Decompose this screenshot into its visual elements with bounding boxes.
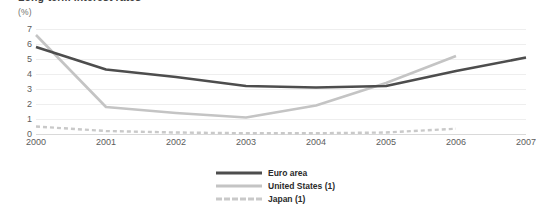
y-tick-label-5: 5 [6, 54, 32, 64]
chart-title: Long-term interest rates [18, 0, 141, 3]
series-line-japan-1 [36, 127, 456, 134]
legend-swatch-icon [216, 180, 262, 192]
x-tick-label-2000: 2000 [26, 137, 46, 147]
x-tick-label-2004: 2004 [306, 137, 326, 147]
x-tick-label-2002: 2002 [166, 137, 186, 147]
legend-label: United States (1) [268, 181, 335, 191]
x-tick-label-2003: 2003 [236, 137, 256, 147]
y-tick-label-6: 6 [6, 39, 32, 49]
legend-swatch-icon [216, 167, 262, 179]
y-tick-label-3: 3 [6, 84, 32, 94]
y-tick-label-1: 1 [6, 114, 32, 124]
chart-legend: Euro areaUnited States (1)Japan (1) [216, 166, 416, 205]
x-axis: 20002001200220032004200520062007 [36, 137, 526, 153]
series-line-united-states-1 [36, 35, 456, 118]
legend-item-united-states-1[interactable]: United States (1) [216, 179, 416, 192]
x-tick-label-2005: 2005 [376, 137, 396, 147]
y-tick-label-7: 7 [6, 24, 32, 34]
series-line-euro-area [36, 47, 526, 88]
y-tick-label-2: 2 [6, 99, 32, 109]
legend-item-japan-1[interactable]: Japan (1) [216, 192, 416, 205]
legend-item-euro-area[interactable]: Euro area [216, 166, 416, 179]
x-tick-label-2006: 2006 [446, 137, 466, 147]
legend-label: Euro area [268, 168, 307, 178]
legend-label: Japan (1) [268, 194, 305, 204]
x-tick-label-2001: 2001 [96, 137, 116, 147]
x-tick-label-2007: 2007 [516, 137, 536, 147]
y-tick-label-4: 4 [6, 69, 32, 79]
series-layer [36, 29, 526, 134]
y-axis: 76543210 [0, 0, 32, 210]
plot-area [36, 29, 526, 134]
legend-swatch-icon [216, 193, 262, 205]
